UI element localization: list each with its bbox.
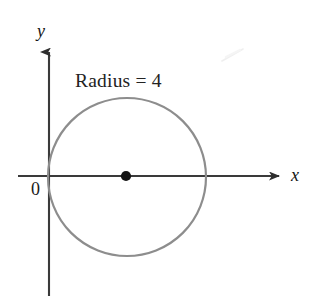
circle-center-dot [121, 171, 131, 181]
scan-artifact-smudge [222, 49, 243, 61]
x-axis-label: x [291, 166, 299, 184]
y-axis-label: y [37, 22, 45, 40]
radius-annotation-label: Radius = 4 [75, 71, 162, 91]
circle-diagram-figure: Radius = 4 y x 0 [0, 0, 318, 307]
origin-label: 0 [31, 180, 40, 198]
figure-canvas [0, 0, 318, 307]
